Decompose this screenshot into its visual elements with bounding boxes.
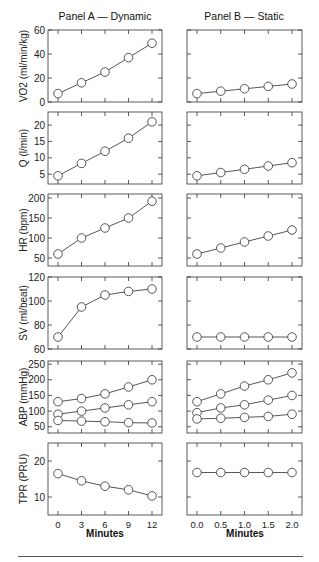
data-point-marker [101, 291, 110, 300]
y-axis-label: TPR (PRU) [18, 454, 29, 505]
subplot-b-1 [187, 112, 302, 184]
y-tick-label: 10 [34, 152, 46, 163]
data-point-marker [193, 397, 202, 406]
data-point-marker [288, 226, 297, 235]
y-tick-label: 20 [34, 120, 46, 131]
y-tick-label: 150 [28, 213, 45, 224]
data-point-marker [264, 162, 273, 171]
y-tick-label: 0 [39, 97, 45, 108]
figure-plots: 0204060VO2 (ml/min/kg)5101520Q (l/min)50… [0, 0, 319, 562]
data-point-marker [288, 410, 297, 419]
data-point-marker [77, 394, 86, 403]
data-point-marker [148, 285, 157, 294]
data-point-marker [77, 79, 86, 88]
data-point-marker [216, 333, 225, 342]
subplot-a-0: 0204060VO2 (ml/min/kg) [18, 25, 162, 108]
y-axis-label: SV (ml/beat) [18, 285, 29, 341]
data-point-marker [216, 168, 225, 177]
panel-a-xlabel: Minutes [45, 528, 165, 539]
y-tick-label: 50 [34, 421, 46, 432]
y-tick-label: 60 [34, 344, 46, 355]
data-point-marker [77, 407, 86, 416]
subplot-a-4: 50100150200250ABP (mmHg) [18, 359, 162, 433]
data-point-marker [264, 412, 273, 421]
y-tick-label: 50 [34, 253, 46, 264]
data-point-marker [240, 382, 249, 391]
data-point-marker [288, 158, 297, 167]
data-point-marker [124, 401, 133, 410]
data-point-marker [216, 468, 225, 477]
data-point-marker [193, 172, 202, 181]
data-point-marker [193, 468, 202, 477]
data-point-marker [148, 492, 157, 501]
data-point-marker [54, 397, 63, 406]
data-point-marker [240, 401, 249, 410]
subplot-a-1: 5101520Q (l/min) [18, 112, 162, 184]
data-point-marker [148, 397, 157, 406]
data-point-marker [124, 418, 133, 427]
data-point-marker [216, 390, 225, 399]
y-axis-label: VO2 (ml/min/kg) [18, 30, 29, 102]
y-tick-label: 80 [34, 320, 46, 331]
data-point-marker [54, 250, 63, 259]
data-point-marker [101, 404, 110, 413]
data-point-marker [101, 68, 110, 77]
subplot-b-4 [187, 361, 302, 433]
y-tick-label: 100 [28, 233, 45, 244]
data-point-marker [264, 82, 273, 91]
y-tick-label: 250 [28, 359, 45, 370]
data-point-marker [240, 165, 249, 174]
data-point-marker [54, 172, 63, 181]
data-point-marker [288, 333, 297, 342]
data-point-marker [101, 482, 110, 491]
data-point-marker [101, 417, 110, 426]
y-tick-label: 5 [39, 169, 45, 180]
data-point-marker [148, 118, 157, 127]
data-point-marker [264, 468, 273, 477]
data-point-marker [77, 159, 86, 168]
subplot-b-0 [187, 30, 302, 102]
footer-rule [18, 556, 303, 557]
data-point-marker [264, 375, 273, 384]
data-point-marker [193, 250, 202, 259]
y-tick-label: 200 [28, 193, 45, 204]
y-axis-label: ABP (mmHg) [18, 368, 29, 427]
data-point-marker [124, 134, 133, 143]
data-point-marker [101, 390, 110, 399]
data-point-marker [216, 87, 225, 96]
data-point-marker [54, 333, 63, 342]
data-point-marker [193, 415, 202, 424]
data-point-marker [240, 333, 249, 342]
data-point-marker [101, 147, 110, 156]
subplot-b-3 [187, 277, 302, 349]
y-tick-label: 20 [34, 456, 46, 467]
data-point-marker [148, 197, 157, 206]
data-point-marker [101, 224, 110, 233]
data-point-marker [216, 244, 225, 253]
data-point-marker [77, 234, 86, 243]
y-tick-label: 120 [28, 272, 45, 283]
data-point-marker [240, 468, 249, 477]
data-point-marker [148, 419, 157, 428]
data-point-marker [264, 396, 273, 405]
data-point-marker [240, 238, 249, 247]
data-point-marker [216, 404, 225, 413]
data-point-marker [77, 303, 86, 312]
y-tick-label: 100 [28, 406, 45, 417]
data-point-marker [240, 85, 249, 94]
data-point-marker [193, 89, 202, 98]
data-point-marker [54, 469, 63, 478]
y-axis-label: HR (bpm) [18, 208, 29, 251]
y-tick-label: 150 [28, 390, 45, 401]
data-point-marker [54, 89, 63, 98]
y-tick-label: 60 [34, 25, 46, 36]
data-point-marker [54, 416, 63, 425]
y-tick-label: 15 [34, 136, 46, 147]
data-point-marker [264, 232, 273, 241]
y-tick-label: 20 [34, 73, 46, 84]
data-point-marker [124, 53, 133, 62]
y-tick-label: 200 [28, 374, 45, 385]
data-point-marker [148, 39, 157, 48]
data-point-marker [77, 417, 86, 426]
panel-b-xlabel: Minutes [185, 528, 305, 539]
